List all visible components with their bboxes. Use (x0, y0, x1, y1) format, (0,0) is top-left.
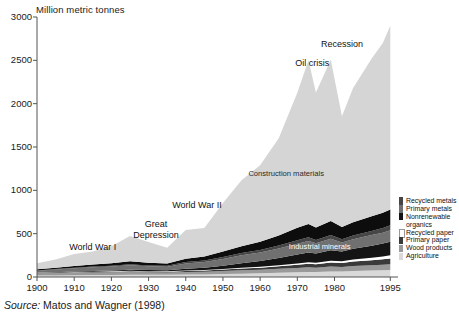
y-tick-label: 2500 (2, 54, 32, 65)
y-tick-label: 1500 (2, 141, 32, 152)
legend-swatch (399, 245, 403, 252)
legend-label: Recycled metals (406, 197, 457, 204)
legend-swatch (399, 253, 403, 260)
x-tick-label: 1970 (277, 282, 317, 293)
legend-label: Nonrenewable (406, 213, 450, 220)
x-tick-label: 1980 (315, 282, 355, 293)
annotation-world-war-i: World War I (69, 242, 116, 253)
x-tick-label: 1960 (240, 282, 280, 293)
legend-swatch (399, 205, 403, 212)
legend-label: Primary metals (406, 205, 452, 212)
annotation-construction-materials: Construction materials (248, 169, 324, 178)
legend-item: Recycled paper (399, 229, 459, 237)
legend-label: Wood products (406, 244, 452, 251)
annotation-great: GreatDepression (133, 219, 179, 240)
annotation-recession: Recession (321, 39, 363, 50)
legend-swatch (399, 197, 403, 204)
x-tick-label: 1995 (370, 282, 410, 293)
annotation-oil-crisis: Oil crisis (295, 58, 329, 69)
y-tick-label: 0 (2, 271, 32, 282)
legend-swatch (399, 213, 403, 220)
x-tick-label: 1900 (17, 282, 57, 293)
x-tick-label: 1940 (166, 282, 206, 293)
x-tick-label: 1950 (203, 282, 243, 293)
y-tick-label: 500 (2, 228, 32, 239)
legend-item: Primary paper (399, 236, 459, 244)
x-tick-label: 1920 (91, 282, 131, 293)
y-tick-label: 2000 (2, 98, 32, 109)
legend-item: Nonrenewable (399, 213, 459, 221)
legend-item: Primary metals (399, 205, 459, 213)
source-text: Matos and Wagner (1998) (43, 299, 165, 311)
annotation-industrial-minerals: Industrial minerals (289, 242, 351, 251)
x-tick-label: 1910 (54, 282, 94, 293)
legend-item: Recycled metals (399, 197, 459, 205)
chart-legend: Recycled metalsPrimary metalsNonrenewabl… (399, 197, 459, 260)
plot-area (0, 0, 459, 300)
legend-label: Recycled paper (406, 229, 454, 236)
y-tick-label: 3000 (2, 11, 32, 22)
x-tick-label: 1930 (129, 282, 169, 293)
source-prefix: Source: (4, 299, 40, 311)
legend-label: Agriculture (406, 252, 439, 259)
stacked-area-svg (0, 0, 459, 300)
legend-label: organics (406, 221, 432, 228)
legend-item: Wood products (399, 244, 459, 252)
annotation-world-war-ii: World War II (172, 200, 222, 211)
chart-figure: Million metric tonnes 050010001500200025… (0, 0, 459, 321)
legend-swatch (399, 237, 403, 244)
legend-item: organics (399, 221, 459, 229)
legend-item: Agriculture (399, 252, 459, 260)
legend-label: Primary paper (406, 236, 449, 243)
y-tick-label: 1000 (2, 184, 32, 195)
source-caption: Source: Matos and Wagner (1998) (4, 299, 165, 311)
